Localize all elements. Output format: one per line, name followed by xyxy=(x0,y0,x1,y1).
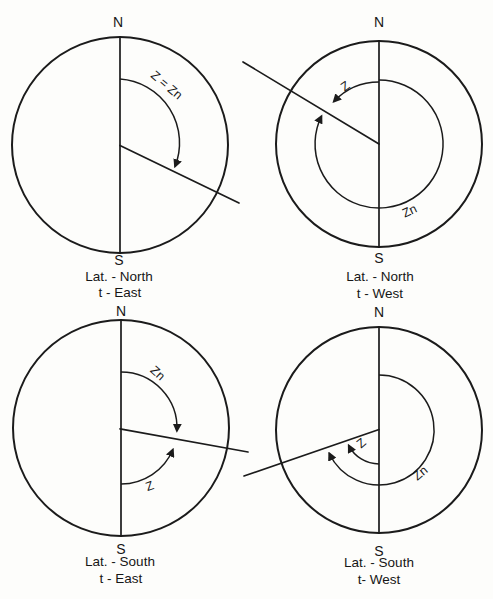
figure-lat-south-t-east: N S Zn Z Lat. - South t - East xyxy=(13,303,248,586)
caption-meridian-angle: t- West xyxy=(358,572,401,587)
figure-lat-north-t-east: N S Z = Zn Lat. - North t - East xyxy=(12,14,239,300)
z-label: Z xyxy=(338,78,353,94)
caption-meridian-angle: t - East xyxy=(99,285,142,300)
figure-lat-north-t-west: N S Z Zn Lat. - North t - West xyxy=(243,14,482,301)
north-label: N xyxy=(116,303,126,319)
zn-arc xyxy=(121,372,177,431)
caption-meridian-angle: t - East xyxy=(100,571,143,586)
figure-lat-south-t-west: N S Z Zn Lat. - South t- West xyxy=(244,304,482,587)
south-label: S xyxy=(114,252,123,268)
caption-latitude: Lat. - South xyxy=(85,554,155,569)
azimuth-line xyxy=(120,146,239,204)
z-label: Z xyxy=(354,435,369,451)
diagram-page: N S Z = Zn Lat. - North t - East N S Z Z… xyxy=(0,0,493,599)
caption-latitude: Lat. - North xyxy=(85,269,153,284)
zn-label: Zn xyxy=(400,202,419,221)
north-label: N xyxy=(374,304,384,320)
caption-meridian-angle: t - West xyxy=(357,286,404,301)
z-equals-zn-label: Z = Zn xyxy=(148,68,185,102)
caption-latitude: Lat. - South xyxy=(344,555,414,570)
caption-latitude: Lat. - North xyxy=(346,269,414,284)
azimuth-line xyxy=(243,62,379,144)
north-label: N xyxy=(374,14,384,30)
zn-label: Zn xyxy=(410,463,430,483)
north-label: N xyxy=(113,14,123,30)
azimuth-diagrams-figure: N S Z = Zn Lat. - North t - East N S Z Z… xyxy=(0,0,493,599)
z-label: Z xyxy=(144,478,156,494)
south-label: S xyxy=(374,250,383,266)
